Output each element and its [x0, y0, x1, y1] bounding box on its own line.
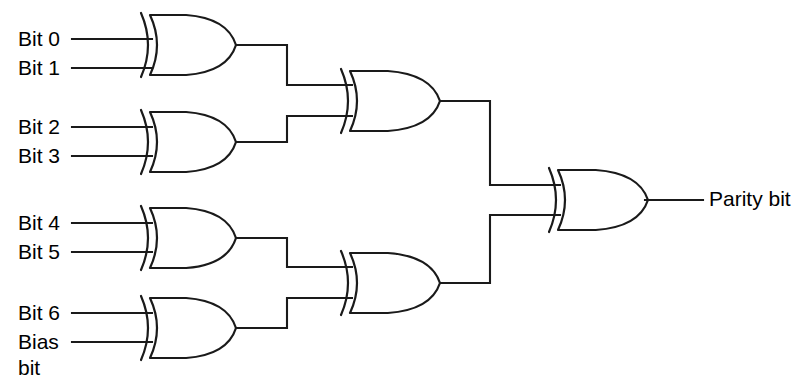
xor-gate-4-body: [150, 298, 236, 358]
xor-gate-1-body: [150, 15, 236, 75]
xor-gate-2[interactable]: [141, 110, 236, 174]
input-label-bit5: Bit 5: [18, 240, 60, 263]
xor-gate-4-xor-arc: [141, 296, 148, 360]
xor-gate-7-body: [558, 170, 648, 230]
input-label-biasbit-line2: bit: [18, 356, 40, 379]
parity-circuit-diagram: Bit 0Bit 1Bit 2Bit 3Bit 4Bit 5Bit 6Biasb…: [0, 0, 801, 390]
xor-gate-7[interactable]: [549, 168, 648, 232]
xor-gate-6[interactable]: [341, 251, 440, 315]
gates-group: [141, 13, 648, 360]
xor-gate-2-body: [150, 112, 236, 172]
xor-gate-3[interactable]: [141, 206, 236, 270]
input-label-bit2: Bit 2: [18, 115, 60, 138]
xor-gate-1[interactable]: [141, 13, 236, 77]
wire-xor2-to-xor5: [236, 116, 352, 142]
input-label-bit3: Bit 3: [18, 144, 60, 167]
wire-xor1-to-xor5: [236, 45, 352, 85]
output-label-parity: Parity bit: [709, 187, 791, 210]
input-label-bit0: Bit 0: [18, 27, 60, 50]
xor-gate-4[interactable]: [141, 296, 236, 360]
xor-gate-7-xor-arc: [549, 168, 556, 232]
input-label-bit4: Bit 4: [18, 211, 60, 234]
link-wires-group: [236, 45, 560, 328]
xor-gate-6-body: [350, 253, 440, 313]
xor-gate-3-body: [150, 208, 236, 268]
input-label-bit1: Bit 1: [18, 56, 60, 79]
wire-xor3-to-xor6: [236, 238, 352, 267]
xor-gate-5-body: [350, 71, 440, 131]
input-label-bit6: Bit 6: [18, 301, 60, 324]
input-wires-group: [72, 39, 152, 342]
xor-gate-6-xor-arc: [341, 251, 348, 315]
xor-gate-5[interactable]: [341, 69, 440, 133]
xor-gate-2-xor-arc: [141, 110, 148, 174]
wire-xor5-to-xor7: [440, 101, 560, 185]
circuit-canvas: Bit 0Bit 1Bit 2Bit 3Bit 4Bit 5Bit 6Biasb…: [0, 0, 801, 390]
wire-xor4-to-xor6: [236, 298, 352, 328]
xor-gate-3-xor-arc: [141, 206, 148, 270]
wire-xor6-to-xor7: [440, 215, 560, 283]
xor-gate-5-xor-arc: [341, 69, 348, 133]
input-label-biasbit: Bias: [18, 330, 59, 353]
labels-group: Bit 0Bit 1Bit 2Bit 3Bit 4Bit 5Bit 6Biasb…: [18, 27, 791, 379]
